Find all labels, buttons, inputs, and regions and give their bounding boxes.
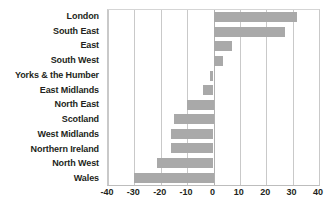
bar[interactable] [187,100,213,110]
bar-row [108,156,319,171]
gridline [319,10,320,185]
bar-row [108,83,319,98]
bar[interactable] [174,114,214,124]
bar[interactable] [171,129,213,139]
bar[interactable] [134,173,213,183]
x-axis-tick-label: 40 [313,188,323,197]
y-axis-label: East Midlands [0,83,103,98]
y-axis-label: South East [0,24,103,39]
bar-row [108,54,319,69]
bar-row [108,127,319,142]
y-axis-label: London [0,9,103,24]
y-axis-label: Northern Ireland [0,142,103,157]
x-axis-tick-label: 20 [260,188,270,197]
x-axis-tick-label: -30 [127,188,140,197]
y-axis-label: Wales [0,171,103,186]
bar-row [108,10,319,25]
y-axis-label: West Midlands [0,127,103,142]
y-axis-label: Yorks & the Humber [0,68,103,83]
y-axis-category-labels: London South East East South West Yorks … [0,9,103,186]
bar[interactable] [157,158,214,168]
bar[interactable] [214,56,223,66]
bar-row [108,112,319,127]
y-axis-label: Scotland [0,112,103,127]
bar-row [108,25,319,40]
x-axis-tick-labels: -40-30-20-10010203040 [107,188,320,204]
bar[interactable] [214,27,285,37]
bar[interactable] [203,85,214,95]
y-axis-label: South West [0,53,103,68]
x-axis-tick-label: -20 [153,188,166,197]
y-axis-label: East [0,39,103,54]
x-axis-tick-label: -40 [100,188,113,197]
bar-row [108,97,319,112]
y-axis-label: North West [0,157,103,172]
x-axis-tick-label: 0 [210,188,215,197]
x-axis-tick-label: 10 [234,188,244,197]
x-axis-tick-label: 30 [287,188,297,197]
bar[interactable] [171,143,213,153]
bar[interactable] [214,12,297,22]
bar-chart: London South East East South West Yorks … [0,0,335,217]
y-axis-label: North East [0,98,103,113]
plot-area [107,9,320,186]
bar[interactable] [210,71,214,81]
bar-row [108,68,319,83]
x-axis-tick-label: -10 [180,188,193,197]
bar-row [108,170,319,185]
bar-row [108,141,319,156]
bar[interactable] [214,41,232,51]
bar-row [108,39,319,54]
bar-series [108,10,319,185]
